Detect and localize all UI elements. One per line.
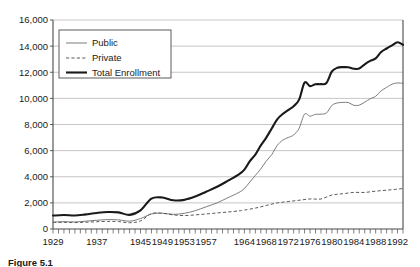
ytick-label-0: 0 [43,223,48,234]
ytick-label-12000: 12,000 [19,67,48,78]
ytick-label-14000: 14,000 [19,41,48,52]
xtick-label-1937: 1937 [86,236,107,247]
ytick-label-10000: 10,000 [19,93,48,104]
xtick-label-1945: 1945 [130,236,151,247]
xtick-label-1976: 1976 [299,236,320,247]
x-axis-tick-marks [53,229,403,234]
xtick-label-1957: 1957 [196,236,217,247]
ytick-label-6000: 6,000 [24,145,48,156]
ytick-label-4000: 4,000 [24,171,48,182]
xtick-label-1968: 1968 [256,236,277,247]
xtick-label-1984: 1984 [343,236,364,247]
figure-container: 16,000 14,000 12,000 10,000 8,000 6,000 … [0,0,420,267]
ytick-label-2000: 2,000 [24,197,48,208]
xtick-label-1949: 1949 [152,236,173,247]
xtick-label-1972: 1972 [278,236,299,247]
xtick-label-1929: 1929 [42,236,63,247]
xtick-label-1964: 1964 [234,236,255,247]
ytick-label-16000: 16,000 [19,14,48,25]
chart-legend: Public Private Total Enrollment [59,30,171,78]
y-axis-tick-labels: 16,000 14,000 12,000 10,000 8,000 6,000 … [19,14,48,234]
legend-label-total-enrollment: Total Enrollment [92,67,160,78]
xtick-label-1992: 1992 [387,236,408,247]
x-axis-tick-labels: 1929193719451949195319571964196819721976… [42,236,408,247]
ytick-label-8000: 8,000 [24,119,48,130]
xtick-label-1988: 1988 [365,236,386,247]
figure-caption: Figure 5.1 [8,257,54,267]
legend-label-private: Private [92,52,122,63]
xtick-label-1980: 1980 [321,236,342,247]
xtick-label-1953: 1953 [174,236,195,247]
legend-label-public: Public [92,37,118,48]
enrollment-line-chart: 16,000 14,000 12,000 10,000 8,000 6,000 … [0,0,420,267]
